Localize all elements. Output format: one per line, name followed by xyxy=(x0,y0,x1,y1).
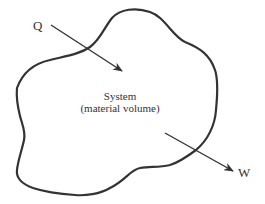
heat-label: Q xyxy=(33,18,43,33)
system-sublabel: (material volume) xyxy=(80,102,159,115)
system-label: System xyxy=(104,90,137,102)
work-label: W xyxy=(238,165,251,180)
work-arrow xyxy=(165,133,233,171)
system-diagram: Q W System (material volume) xyxy=(0,0,265,204)
heat-arrow xyxy=(51,25,122,71)
